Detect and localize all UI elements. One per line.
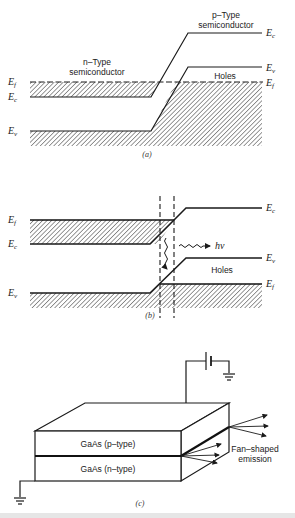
photon-energy-label: hν	[215, 240, 225, 251]
label-ec-left: Ec	[7, 91, 18, 104]
label-ef-left: Ef	[7, 76, 17, 89]
p-type-label-line2: semiconductor	[198, 20, 253, 30]
valence-band-filled-hatch	[30, 284, 262, 308]
battery-circuit	[186, 352, 235, 403]
recombination-transition-arrow	[165, 238, 168, 269]
holes-label-b: Holes	[211, 265, 233, 275]
label-ec-left: Ec	[7, 238, 18, 251]
panel-b-band-diagram-forward-bias: hν Ef Ec Ev Ec Ev Ef Holes (b)	[7, 196, 276, 320]
label-ev-right: Ev	[265, 252, 276, 265]
emission-label-line1: Fan–shaped	[231, 444, 279, 454]
label-ec-right: Ec	[265, 27, 276, 40]
caption-b: (b)	[145, 311, 155, 320]
caption-a: (a)	[142, 150, 152, 159]
holes-label-a: Holes	[214, 71, 236, 81]
n-type-layer-label: GaAs (n–type)	[81, 464, 136, 474]
fan-emission-arrows-back	[229, 415, 268, 436]
ground-circuit-bottom	[14, 481, 35, 504]
label-ev-left: Ev	[7, 287, 18, 300]
photon-emission-arrow	[179, 245, 210, 248]
n-type-label-line2: semiconductor	[69, 67, 124, 77]
panel-a-band-diagram-equilibrium: Ef Ec Ev Ec Ev Ef n–Type semiconductor p…	[7, 10, 276, 159]
p-n-junction-laser-figure: Ef Ec Ev Ec Ev Ef n–Type semiconductor p…	[0, 0, 295, 518]
truncated-figure-caption	[0, 513, 295, 518]
panel-c-laser-diode-structure: GaAs (p–type) GaAs (n–type) Fan–shaped e…	[14, 352, 279, 508]
label-ef-right: Ef	[265, 278, 275, 291]
p-type-label-line1: p–Type	[212, 10, 240, 20]
p-type-layer-label: GaAs (p–type)	[81, 439, 136, 449]
label-ev-left: Ev	[7, 125, 18, 138]
ground-icon-top	[223, 374, 235, 380]
n-type-label-line1: n–Type	[83, 57, 111, 67]
label-ec-right: Ec	[265, 202, 276, 215]
n-side-filled-electrons-hatch	[30, 220, 174, 244]
label-ev-right: Ev	[265, 62, 276, 75]
emission-label-line2: emission	[238, 454, 272, 464]
ground-icon-bottom	[14, 498, 26, 504]
caption-c: (c)	[136, 499, 145, 508]
label-ef-left: Ef	[7, 214, 17, 227]
n-side-filled-electrons-hatch	[30, 82, 159, 97]
label-ef-right: Ef	[265, 77, 275, 90]
